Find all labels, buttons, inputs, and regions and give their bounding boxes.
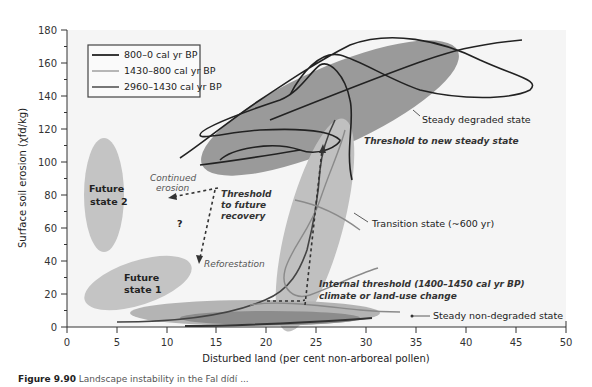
figure-caption: Figure 9.90 Landscape instability in the… (18, 374, 249, 384)
y-axis-title: Surface soil erosion (χfd/kg) (17, 108, 28, 248)
label-future2-1: Future (89, 183, 124, 194)
svg-text:25: 25 (310, 337, 323, 348)
svg-text:10: 10 (161, 337, 174, 348)
svg-text:45: 45 (510, 337, 523, 348)
label-threshold-future-2: to future (221, 200, 266, 210)
label-continued-1: Continued (150, 173, 196, 183)
legend-item-2: 1430–800 cal yr BP (124, 65, 216, 76)
label-future2-2: state 2 (90, 196, 128, 207)
label-steady-degraded: Steady degraded state (422, 114, 531, 125)
label-threshold-future-1: Threshold (221, 189, 272, 199)
svg-text:40: 40 (460, 337, 473, 348)
x-axis-title: Disturbed land (per cent non-arboreal po… (202, 353, 429, 364)
svg-text:100: 100 (38, 157, 57, 168)
y-axis (61, 30, 67, 327)
svg-text:20: 20 (44, 289, 57, 300)
label-question: ? (177, 218, 183, 229)
svg-text:20: 20 (260, 337, 273, 348)
label-transition: Transition state (~600 yr) (371, 218, 494, 229)
y-tick-labels: 0 20 40 60 80 100 120 140 160 180 (38, 25, 57, 333)
label-future1-1: Future (124, 272, 159, 283)
svg-text:180: 180 (38, 25, 57, 36)
svg-text:80: 80 (44, 190, 57, 201)
svg-text:15: 15 (210, 337, 223, 348)
label-internal-threshold-2: climate or land-use change (319, 291, 457, 301)
svg-text:35: 35 (410, 337, 423, 348)
region-future-2 (84, 138, 124, 252)
legend-item-3: 2960–1430 cal yr BP (124, 81, 222, 92)
svg-text:0: 0 (64, 337, 70, 348)
label-continued-2: erosion (156, 183, 189, 193)
svg-text:140: 140 (38, 91, 57, 102)
label-future1-2: state 1 (124, 284, 162, 295)
label-threshold-future-3: recovery (221, 211, 266, 221)
svg-text:60: 60 (44, 223, 57, 234)
label-reforestation: Reforestation (204, 259, 265, 269)
svg-text:50: 50 (560, 337, 573, 348)
legend-item-1: 800–0 cal yr BP (124, 49, 198, 60)
label-steady-nondegraded: Steady non-degraded state (433, 310, 563, 321)
svg-text:0: 0 (51, 322, 57, 333)
svg-text:40: 40 (44, 256, 57, 267)
x-tick-labels: 0 5 10 15 20 25 30 35 40 45 50 (64, 337, 573, 348)
svg-text:5: 5 (114, 337, 120, 348)
svg-text:160: 160 (38, 58, 57, 69)
figure-number: Figure 9.90 (18, 374, 76, 384)
label-internal-threshold-1: Internal threshold (1400–1450 cal yr BP) (319, 279, 525, 289)
label-threshold-new: Threshold to new steady state (364, 136, 519, 146)
svg-text:30: 30 (360, 337, 373, 348)
nondegraded-dot (411, 315, 414, 318)
chart: 800–0 cal yr BP 1430–800 cal yr BP 2960–… (0, 0, 592, 387)
caption-text: Landscape instability in the Fal dídí ..… (79, 374, 249, 384)
svg-text:120: 120 (38, 124, 57, 135)
